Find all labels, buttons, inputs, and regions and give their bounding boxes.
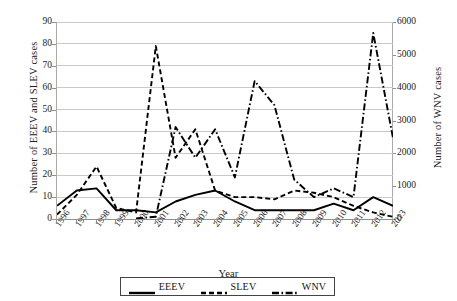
- legend-item-wnv[interactable]: WNV: [272, 281, 326, 292]
- plot-area: [56, 22, 393, 220]
- legend-item-eeev[interactable]: EEEV: [129, 281, 185, 292]
- legend-swatch-icon: [272, 283, 298, 291]
- x-tick-mark: [175, 220, 176, 224]
- gridlines: [57, 22, 393, 197]
- legend-swatch-icon: [201, 283, 227, 291]
- x-tick-mark: [254, 220, 255, 224]
- legend-item-slev[interactable]: SLEV: [201, 281, 257, 292]
- x-tick-mark: [76, 220, 77, 224]
- legend-item-label: EEEV: [159, 281, 185, 292]
- x-tick-mark: [115, 220, 116, 224]
- x-tick-mark: [352, 220, 353, 224]
- x-tick-mark: [273, 220, 274, 224]
- x-tick-mark: [155, 220, 156, 224]
- x-tick-mark: [56, 220, 57, 224]
- legend-item-label: SLEV: [231, 281, 257, 292]
- chart-figure: Number of EEEV and SLEV cases Number of …: [0, 0, 457, 301]
- x-tick-mark: [293, 220, 294, 224]
- x-tick-mark: [194, 220, 195, 224]
- x-tick-mark: [214, 220, 215, 224]
- chart-legend: EEEVSLEVWNV: [120, 277, 335, 296]
- legend-swatch-icon: [129, 283, 155, 291]
- x-tick-mark: [392, 220, 393, 224]
- legend-item-label: WNV: [302, 281, 326, 292]
- x-tick-mark: [333, 220, 334, 224]
- x-tick-mark: [372, 220, 373, 224]
- plot-canvas: [57, 22, 393, 219]
- x-tick-mark: [234, 220, 235, 224]
- x-tick-mark: [135, 220, 136, 224]
- x-tick-mark: [96, 220, 97, 224]
- series-lines: [57, 33, 393, 218]
- series-line-wnv: [136, 33, 393, 218]
- x-tick-mark: [313, 220, 314, 224]
